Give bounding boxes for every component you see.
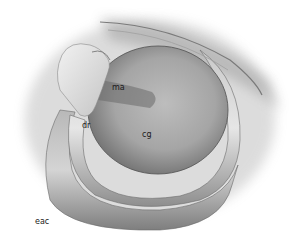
ear-anatomy-illustration: ma dr cg eac (0, 0, 296, 248)
label-cg: cg (142, 131, 151, 139)
illustration-svg (0, 0, 296, 248)
label-eac: eac (35, 218, 49, 226)
label-ma: ma (112, 84, 125, 92)
label-dr: dr (82, 122, 90, 130)
